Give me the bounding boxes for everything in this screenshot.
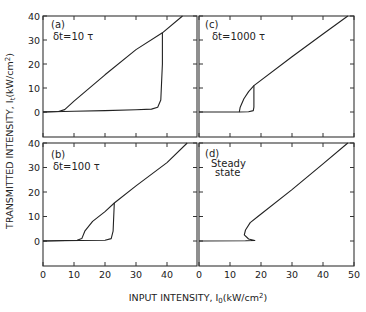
y-tick-label: 0 [34, 236, 40, 247]
x-tick-label: 20 [255, 269, 267, 280]
x-tick-label: 30 [130, 269, 142, 280]
panel-b-label: (b) [51, 149, 65, 160]
y-axis-label: TRANSMITTED INTENSITY, It(kW/cm2) [4, 53, 17, 230]
y-tick-label: 0 [34, 107, 40, 118]
figure: 01020304001020304001020304001020304050 (… [0, 0, 366, 312]
y-tick-label: 20 [28, 187, 40, 198]
panel-a-annotation: δt=10 τ [53, 31, 93, 42]
y-tick-label: 40 [28, 138, 40, 149]
y-tick-label: 30 [28, 35, 40, 46]
panel-c-annotation: δt=1000 τ [212, 31, 265, 42]
x-tick-label: 0 [40, 269, 46, 280]
panels: 01020304001020304001020304001020304050 [28, 11, 360, 281]
x-tick-label: 30 [286, 269, 298, 280]
panel-b-annotation: δt=100 τ [53, 161, 100, 172]
curve-lower-branch [43, 203, 114, 241]
chart-svg: 01020304001020304001020304001020304050 (… [0, 0, 366, 312]
x-tick-label: 0 [196, 269, 202, 280]
y-tick-label: 30 [28, 162, 40, 173]
x-axis-label: INPUT INTENSITY, I0(kW/cm2) [129, 292, 267, 305]
curve-lower-branch [239, 86, 254, 112]
x-tick-label: 10 [224, 269, 236, 280]
y-tick-label: 10 [28, 211, 40, 222]
x-tick-label: 10 [68, 269, 80, 280]
panel-c-label: (c) [205, 19, 218, 30]
y-tick-label: 40 [28, 11, 40, 22]
x-tick-label: 20 [99, 269, 111, 280]
x-tick-label: 50 [348, 269, 360, 280]
y-tick-label: 10 [28, 83, 40, 94]
x-tick-label: 40 [161, 269, 173, 280]
x-tick-label: 40 [317, 269, 329, 280]
panel-d-annotation-line2: state [215, 167, 240, 178]
panel-a-label: (a) [51, 19, 65, 30]
y-tick-label: 20 [28, 59, 40, 70]
